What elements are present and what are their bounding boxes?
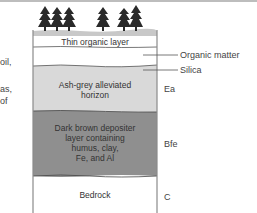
bedrock-label: Bedrock [33, 190, 157, 200]
conifer-tree-icon [62, 7, 76, 31]
thin-organic-layer-label: Thin organic layer [33, 37, 157, 47]
conifer-tree-icon [96, 7, 110, 31]
horizon-c-label: C [164, 192, 171, 202]
ea-layer-label: Ash-grey alleviated horizon [33, 80, 157, 100]
soil-profile-diagram [0, 0, 257, 213]
ea-layer-label-line-2: horizon [33, 90, 157, 100]
conifer-tree-icon [129, 5, 143, 31]
conifer-tree-icon [50, 7, 64, 31]
bfe-layer-label-line-1: Dark brown depositer [33, 123, 157, 133]
bfe-layer-label: Dark brown depositer layer containing hu… [33, 123, 157, 163]
ground-band [33, 29, 157, 36]
bfe-layer-label-line-3: humus, clay, [33, 143, 157, 153]
organic-matter-callout: Organic matter [180, 50, 240, 60]
silica-callout: Silica [180, 65, 202, 75]
horizon-bfe-label: Bfe [164, 139, 178, 149]
bfe-layer-label-line-2: layer containing [33, 133, 157, 143]
conifer-tree-icon [117, 8, 131, 31]
conifer-tree-icon [38, 6, 52, 31]
bfe-layer-label-line-4: Fe, and Al [33, 153, 157, 163]
ea-layer-label-line-1: Ash-grey alleviated [33, 80, 157, 90]
horizon-ea-label: Ea [164, 84, 175, 94]
